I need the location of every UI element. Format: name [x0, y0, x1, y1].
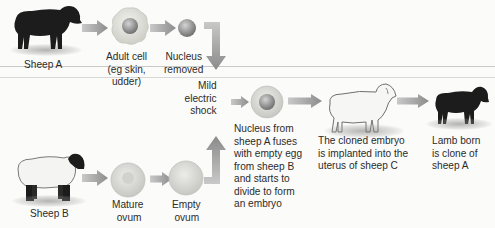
- adult-cell-label: Adult cell (eg skin, udder): [106, 50, 147, 88]
- sheep-b-label: Sheep B: [30, 207, 69, 220]
- black-sheep-icon: [4, 2, 82, 54]
- arrow-elbow-up-icon: [204, 136, 226, 184]
- arrow-right-icon: [150, 20, 176, 36]
- arrow-right-icon: [288, 94, 322, 108]
- adult-cell: [110, 6, 150, 46]
- electric-shock-label: Mild electric shock: [181, 79, 217, 117]
- mature-ovum-label: Mature ovum: [112, 198, 144, 223]
- sheep-a: [4, 2, 82, 60]
- arrow-elbow-down-icon: [204, 22, 226, 70]
- lamb: [426, 84, 492, 134]
- arrow-right-icon: [82, 20, 108, 36]
- adult-cell-icon: [110, 6, 150, 46]
- nucleus-icon: [177, 18, 197, 38]
- arrow-right-icon: [231, 96, 249, 108]
- empty-ovum-label: Empty ovum: [172, 198, 201, 223]
- nucleus-removed-label: Nucleus removed: [164, 50, 203, 75]
- divider-line-top: [0, 66, 495, 67]
- sheep-b: [8, 147, 86, 209]
- divider-line-bottom: [0, 77, 495, 78]
- arrow-right-icon: [82, 170, 108, 186]
- sheep-a-label: Sheep A: [24, 58, 62, 71]
- sheep-c: [322, 80, 400, 142]
- fused-egg-label: Nucleus from sheep A fuses with empty eg…: [234, 122, 302, 210]
- sheep-c-label: The cloned embryo is implanted into the …: [318, 134, 408, 172]
- empty-ovum-icon: [168, 160, 204, 196]
- arrow-right-icon: [397, 94, 429, 108]
- ovum-icon: [110, 162, 146, 198]
- fused-egg-icon: [250, 85, 284, 119]
- lamb-label: Lamb born is clone of sheep A: [432, 134, 480, 172]
